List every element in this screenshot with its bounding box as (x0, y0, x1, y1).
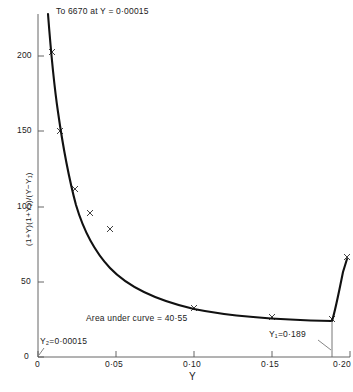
x-tick-label-005: 0·05 (105, 359, 123, 369)
y-tick-label-200: 200 (17, 50, 32, 60)
curve-main (48, 14, 332, 321)
x-tick-label-0: 0 (35, 359, 40, 369)
y-tick-label-150: 150 (17, 125, 32, 135)
x-tick-label-020: 0·20 (333, 359, 351, 369)
annotation-y1-value: Y₁=0·189 (269, 329, 306, 339)
annotation-y2-value: Y₂=0·00015 (40, 336, 87, 346)
y1-leader-line (318, 340, 331, 350)
annotation-top-note: To 6670 at Y = 0·00015 (56, 6, 149, 16)
data-point-marker (87, 210, 93, 216)
data-point-marker (107, 226, 113, 232)
x-axis-title: Y (189, 371, 196, 382)
x-axis-ticks (38, 351, 350, 357)
y2-leader-line (39, 348, 44, 355)
y-tick-label-50: 50 (21, 276, 31, 286)
x-tick-label-010: 0·10 (183, 359, 201, 369)
y-tick-label-100: 100 (17, 201, 32, 211)
curve-upturn (332, 259, 347, 321)
x-tick-label-015: 0·15 (261, 359, 279, 369)
y-tick-label-0: 0 (24, 351, 29, 361)
data-point-markers (49, 49, 350, 322)
annotation-area-under-curve: Area under curve = 40·55 (86, 313, 187, 323)
y-axis-ticks (38, 56, 44, 357)
